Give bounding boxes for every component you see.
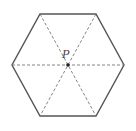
center-label: P [61,48,70,61]
center-point [66,63,70,67]
hexagon-diagram: P [0,0,136,131]
